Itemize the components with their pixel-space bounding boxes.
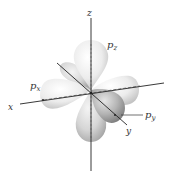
py-label: py [145,109,156,122]
x-marker [42,99,44,101]
origin-point [90,92,93,95]
z-axis-label: z [86,8,92,18]
pz-label: pz [107,39,117,52]
p-orbitals-diagram: z x y pz px py [0,0,176,171]
x-axis-label: x [8,102,13,112]
px-label: px [30,80,40,93]
y-marker [114,114,116,116]
y-axis-label: y [125,126,132,136]
